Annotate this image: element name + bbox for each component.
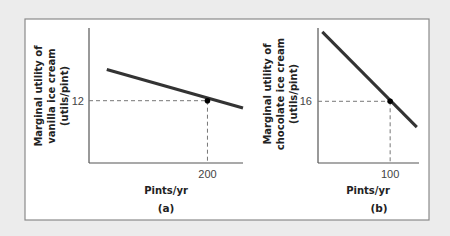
panel-a-y-label-line-3: (utils/pint) — [59, 66, 70, 126]
figure: 12 200 Pints/yr (a) Marginal utility of … — [0, 0, 450, 236]
panel-a-y-label-line-1: Marginal utility of — [33, 45, 44, 147]
panel-b-label: (b) — [370, 202, 387, 214]
panel-a-y-tick-label: 12 — [72, 95, 84, 107]
panel-b-y-tick-label: 16 — [300, 95, 312, 107]
panel-b-y-label-line-1: Marginal utility of — [262, 43, 273, 145]
panel-a-label: (a) — [158, 202, 175, 214]
panel-b-x-tick-label: 100 — [381, 168, 399, 180]
panel-a-x-tick-label: 200 — [198, 168, 216, 180]
panel-b-x-axis-label: Pints/yr — [346, 185, 390, 196]
panel-b-y-label-line-2: chocolate ice cream — [275, 38, 286, 150]
panel-a-highlight-point — [205, 98, 211, 104]
panel-a-y-label-line-2: vanilla ice cream — [46, 48, 57, 143]
panel-b-y-label-line-3: (utils/pint) — [288, 64, 299, 124]
panel-a-x-axis-label: Pints/yr — [144, 185, 188, 196]
panel-b-highlight-point — [387, 98, 393, 104]
